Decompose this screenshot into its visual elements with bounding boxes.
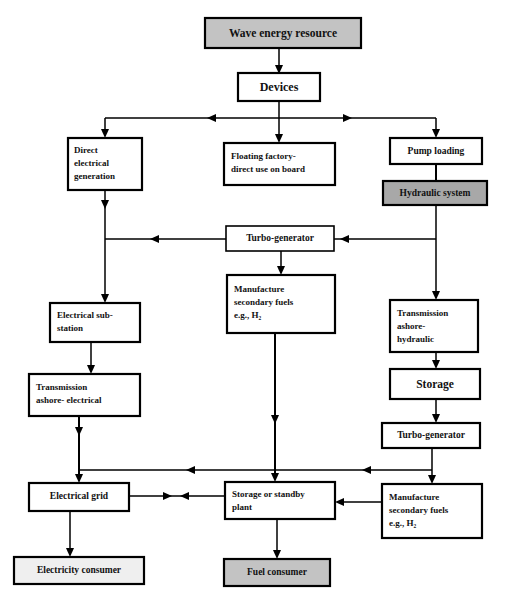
node-electrical-grid[interactable]: Electrical grid <box>29 483 129 511</box>
node-electricity-consumer[interactable]: Electricity consumer <box>14 557 144 584</box>
node-storage[interactable]: Storage <box>390 369 480 399</box>
edge-manufacture-secondary-fuels-mid-to-storage-or-standby-plant <box>271 333 279 482</box>
node-label-storage-or-standby-plant-line1: Storage or standby <box>232 489 305 499</box>
edge-electrical-grid-to-electricity-consumer <box>66 511 74 557</box>
node-label-direct-electrical-generation-line2: electrical <box>74 158 109 168</box>
node-label-transmission-ashore-electrical-line2: ashore- electrical <box>36 395 102 405</box>
node-floating-factory[interactable]: Floating factory- direct use on board <box>224 143 335 185</box>
node-label-wave-energy-resource: Wave energy resource <box>229 27 337 40</box>
edge-wave-to-devices <box>275 48 283 74</box>
node-label-storage: Storage <box>416 378 454 391</box>
node-label-floating-factory-line2: direct use on board <box>231 164 305 174</box>
node-direct-electrical-generation[interactable]: Direct electrical generation <box>68 138 142 190</box>
node-label-manufacture-secondary-fuels-right-line2: secondary fuels <box>389 505 449 515</box>
node-label-transmission-ashore-electrical-line1: Transmission <box>36 382 87 392</box>
node-pump-loading[interactable]: Pump loading <box>390 138 482 164</box>
edge-transmission-ashore-electrical-to-electrical-grid <box>75 416 83 483</box>
node-label-manufacture-secondary-fuels-right-line3: e.g., H₂ <box>389 518 416 528</box>
node-wave-energy-resource[interactable]: Wave energy resource <box>205 18 361 48</box>
node-manufacture-secondary-fuels-mid[interactable]: Manufacture secondary fuels e.g., H₂ <box>227 275 335 333</box>
node-label-transmission-ashore-hydraulic-line3: hydraulic <box>397 334 434 344</box>
node-storage-or-standby-plant[interactable]: Storage or standby plant <box>225 482 335 519</box>
node-label-electrical-sub-station-line1: Electrical sub- <box>57 310 113 320</box>
node-manufacture-secondary-fuels-right[interactable]: Manufacture secondary fuels e.g., H₂ <box>382 484 482 538</box>
node-label-fuel-consumer: Fuel consumer <box>247 567 308 577</box>
node-label-manufacture-secondary-fuels-mid-line3: e.g., H₂ <box>234 310 261 320</box>
node-label-transmission-ashore-hydraulic-line1: Transmission <box>397 308 448 318</box>
node-devices[interactable]: Devices <box>238 73 320 101</box>
node-label-hydraulic-system: Hydraulic system <box>400 188 471 198</box>
edge-turbo-generator-mid-to-manufacture-secondary-fuels-mid <box>277 251 285 275</box>
node-transmission-ashore-electrical[interactable]: Transmission ashore- electrical <box>29 374 140 416</box>
edge-turbo-generator-right-to-manufacture-secondary-fuels-right <box>428 470 436 484</box>
edge-electrical-sub-station-to-transmission-ashore-electrical <box>87 342 95 374</box>
node-label-transmission-ashore-hydraulic-line2: ashore- <box>397 321 425 331</box>
node-electrical-sub-station[interactable]: Electrical sub- station <box>50 303 140 342</box>
node-hydraulic-system[interactable]: Hydraulic system <box>383 181 487 205</box>
edge-bus-to-floating-factory <box>275 118 283 143</box>
node-label-electrical-grid: Electrical grid <box>50 491 109 501</box>
edge-electrical-grid-to-storage-or-standby-plant <box>129 492 225 500</box>
node-transmission-ashore-hydraulic[interactable]: Transmission ashore- hydraulic <box>390 300 478 352</box>
edge-manufacture-secondary-fuels-right-to-storage-or-standby-plant <box>335 498 382 506</box>
edge-storage-or-standby-plant-to-fuel-consumer <box>273 519 281 559</box>
edge-devices-to-distribution-bus <box>105 101 436 122</box>
flowchart-canvas: Wave energy resource Devices Direct elec… <box>0 0 514 609</box>
node-label-devices: Devices <box>260 80 299 94</box>
edge-hydraulic-system-to-turbo-generator-mid <box>334 205 436 243</box>
node-label-electricity-consumer: Electricity consumer <box>37 565 122 575</box>
node-label-storage-or-standby-plant-line2: plant <box>232 502 252 512</box>
node-label-electrical-sub-station-line2: station <box>57 323 83 333</box>
edge-transmission-ashore-hydraulic-to-storage <box>432 352 440 369</box>
node-turbo-generator-mid[interactable]: Turbo-generator <box>226 226 334 251</box>
edge-direct-electrical-generation-to-electrical-sub-station <box>101 190 109 303</box>
node-label-manufacture-secondary-fuels-right-line1: Manufacture <box>389 492 439 502</box>
node-label-direct-electrical-generation-line3: generation <box>74 171 115 181</box>
node-label-turbo-generator-mid: Turbo-generator <box>246 233 315 243</box>
edge-bus-to-direct-electrical-generation <box>101 118 109 138</box>
node-label-direct-electrical-generation-line1: Direct <box>74 145 98 155</box>
node-label-turbo-generator-right: Turbo-generator <box>397 430 466 440</box>
edge-storage-to-turbo-generator-right <box>432 399 440 423</box>
node-label-floating-factory-line1: Floating factory- <box>231 151 296 161</box>
edge-bus-to-pump-loading <box>432 118 440 138</box>
node-label-manufacture-secondary-fuels-mid-line2: secondary fuels <box>234 297 294 307</box>
node-layer: Wave energy resource Devices Direct elec… <box>14 18 487 586</box>
edge-turbo-generator-mid-to-substation-column <box>105 235 226 243</box>
edge-turbo-generator-right-to-lower-bus <box>79 448 432 474</box>
edge-hydraulic-system-to-transmission-ashore-hydraulic <box>432 239 440 300</box>
node-label-manufacture-secondary-fuels-mid-line1: Manufacture <box>234 284 284 294</box>
node-label-pump-loading: Pump loading <box>408 146 465 156</box>
node-turbo-generator-right[interactable]: Turbo-generator <box>382 423 480 448</box>
node-fuel-consumer[interactable]: Fuel consumer <box>224 559 330 586</box>
